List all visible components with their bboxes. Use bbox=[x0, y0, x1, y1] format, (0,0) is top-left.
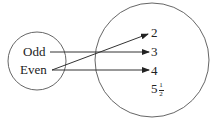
range-label-2: 2 bbox=[151, 26, 158, 39]
range-label-4: 4 bbox=[151, 64, 158, 77]
range-label-5-half: 512 bbox=[151, 82, 164, 98]
range-label-3: 3 bbox=[151, 45, 158, 58]
mapping-diagram: Odd Even 2 3 4 512 bbox=[0, 0, 220, 120]
fraction-denominator: 2 bbox=[159, 91, 163, 98]
domain-label-even: Even bbox=[20, 63, 47, 76]
range-circle bbox=[95, 3, 209, 117]
diagram-graphics bbox=[0, 0, 220, 120]
fraction-numerator: 1 bbox=[159, 82, 163, 89]
fraction-whole: 5 bbox=[151, 81, 158, 96]
fraction-half: 12 bbox=[159, 82, 164, 98]
domain-circle bbox=[8, 32, 66, 90]
domain-label-odd: Odd bbox=[23, 45, 45, 58]
